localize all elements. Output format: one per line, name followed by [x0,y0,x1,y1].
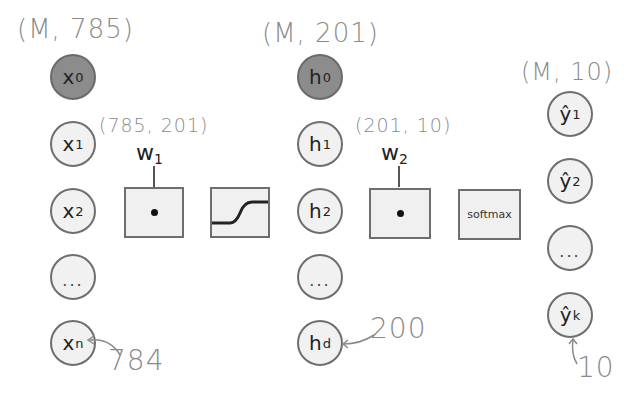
dot-product-box-2 [369,188,431,239]
hidden-node-h0: h0 [297,54,343,100]
w1-label: w1 [136,140,163,167]
output-shape-label: (M, 10) [521,58,613,86]
w1-connector [153,166,155,187]
hidden-count-annotation: 200 [370,312,426,345]
sigmoid-icon [212,189,268,236]
hidden-node-ellipsis: ... [297,254,343,300]
hidden-node-h2: h2 [297,188,343,234]
input-node-x1: x1 [50,121,96,167]
input-node-x0: x0 [50,54,96,100]
output-node-y2: ŷ2 [547,158,593,204]
input-node-x2: x2 [50,188,96,234]
output-node-y1: ŷ1 [547,91,593,137]
input-node-ellipsis: ... [50,254,96,300]
w2-shape-label: (201, 10) [355,114,451,136]
dot-icon [151,209,158,216]
dot-product-box-1 [124,187,184,238]
output-node-ellipsis: ... [547,225,593,271]
hidden-shape-label: (M, 201) [262,18,379,48]
w2-connector [398,166,400,187]
softmax-box: softmax [458,189,521,240]
hidden-node-h1: h1 [297,121,343,167]
w2-label: w2 [381,140,408,167]
output-count-annotation: 10 [577,351,615,384]
sigmoid-box [210,187,270,238]
input-count-annotation: 784 [108,344,164,377]
w1-shape-label: (785, 201) [99,114,208,136]
input-shape-label: (M, 785) [17,14,134,44]
output-node-yk: ŷk [547,292,593,338]
hidden-node-hd: hd [297,320,343,366]
dot-icon [397,210,404,217]
